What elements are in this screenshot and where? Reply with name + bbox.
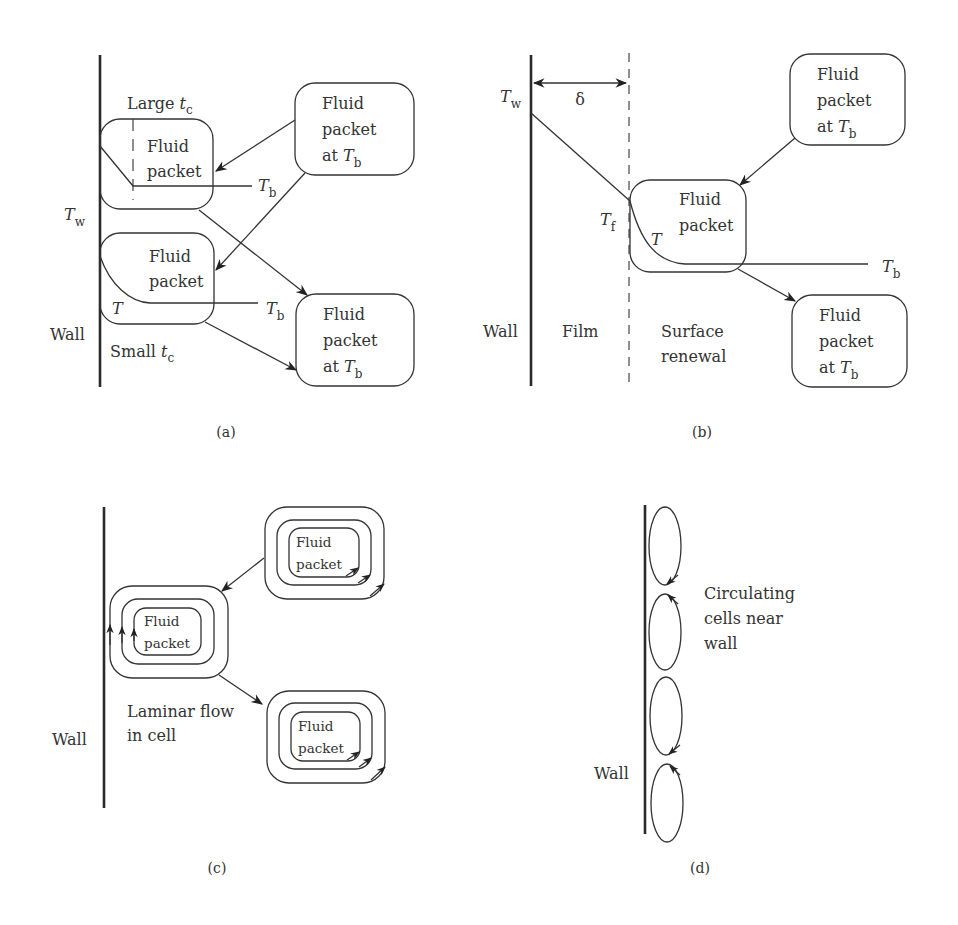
wall-label: Wall <box>483 322 518 341</box>
panel-caption: (c) <box>208 860 227 876</box>
circulating-cell-2 <box>649 594 681 670</box>
panel-caption: (a) <box>216 424 235 440</box>
circulating-label-1: Circulating <box>704 584 795 603</box>
source-text-1: Fluid <box>817 65 859 84</box>
panel-c: Fluid packet Fluid packet Fluid packet <box>52 507 385 876</box>
figure-canvas: Large tc Fluid packet Tb Tw Fluid packet… <box>0 0 958 925</box>
source-text-1: Fluid <box>322 94 364 113</box>
wall-label: Wall <box>594 764 629 783</box>
profile-temp-label: T <box>112 299 124 318</box>
sink-text-2: packet <box>819 332 874 351</box>
sink-text-3: at Tb <box>323 357 363 381</box>
surface-renewal-label-1: Surface <box>661 322 724 341</box>
panel-caption: (b) <box>692 424 712 440</box>
sink-text-1: Fluid <box>323 305 365 324</box>
laminar-flow-label-2: in cell <box>127 726 176 745</box>
arrow-middle-to-sink <box>738 269 795 301</box>
arrow-source-to-left <box>222 558 264 591</box>
bulk-temp-lower-label: Tb <box>266 299 285 323</box>
circulating-cell-1 <box>649 507 681 585</box>
middle-text-1: Fluid <box>679 190 721 209</box>
film-temp-label: Tf <box>600 210 617 234</box>
source-text-2: packet <box>322 120 377 139</box>
cell-text-2: packet <box>298 740 344 756</box>
packet-lower-text-2: packet <box>149 272 204 291</box>
wall-temp-label: Tw <box>500 87 522 111</box>
bulk-temp-label: Tb <box>882 257 901 281</box>
wall-label: Wall <box>52 730 87 749</box>
panel-caption: (d) <box>690 860 710 876</box>
source-text-3: at Tb <box>817 117 857 141</box>
panel-d: Circulating cells near wall Wall (d) <box>594 505 795 876</box>
film-temperature-line <box>531 113 630 201</box>
laminar-flow-label-1: Laminar flow <box>127 702 234 721</box>
flow-cell-source: Fluid packet <box>265 507 384 599</box>
packet-upper-text-2: packet <box>147 162 202 181</box>
cell-text-1: Fluid <box>144 613 180 629</box>
flow-cell-left: Fluid packet <box>110 586 228 678</box>
renewal-temperature-curve <box>630 201 868 264</box>
circulating-label-2: cells near <box>704 609 783 628</box>
circulating-cell-3 <box>650 677 682 755</box>
bulk-temp-upper-label: Tb <box>258 176 277 200</box>
circulating-label-3: wall <box>704 634 737 653</box>
flow-cell-sink: Fluid packet <box>267 691 385 783</box>
packet-lower-text-1: Fluid <box>149 247 191 266</box>
circulating-cell-4 <box>651 764 683 842</box>
cell-text-1: Fluid <box>296 534 332 550</box>
surface-renewal-label-2: renewal <box>661 347 726 366</box>
panel-b: δ Tw Tf T Tb Fluid packet Fluid packet a… <box>483 53 907 440</box>
small-tc-label: Small tc <box>110 342 174 365</box>
arrow-lower-to-sink <box>205 322 296 370</box>
circulation-arrow-4 <box>670 766 680 775</box>
source-text-3: at Tb <box>322 146 362 170</box>
sink-text-2: packet <box>323 331 378 350</box>
packet-upper-text-1: Fluid <box>147 137 189 156</box>
arrow-left-to-sink <box>219 675 262 704</box>
source-text-2: packet <box>817 91 872 110</box>
middle-text-2: packet <box>679 216 734 235</box>
circulation-arrow-3 <box>669 745 680 754</box>
sink-text-3: at Tb <box>819 358 859 382</box>
delta-label: δ <box>575 90 585 109</box>
cell-text-2: packet <box>144 635 190 651</box>
large-tc-label: Large tc <box>127 94 193 117</box>
panel-a: Large tc Fluid packet Tb Tw Fluid packet… <box>50 55 414 440</box>
film-label: Film <box>562 322 599 341</box>
arrow-source-to-upper <box>216 120 295 171</box>
wall-temp-label: Tw <box>64 205 86 229</box>
cell-text-2: packet <box>296 556 342 572</box>
circulation-arrow-2 <box>668 595 678 604</box>
circulation-arrow-1 <box>667 575 678 584</box>
wall-label: Wall <box>50 325 85 344</box>
sink-text-1: Fluid <box>819 306 861 325</box>
arrow-source-to-middle <box>740 138 795 185</box>
cell-text-1: Fluid <box>298 718 334 734</box>
arrow-upper-to-sink <box>199 210 307 295</box>
profile-temp-label: T <box>651 230 663 249</box>
